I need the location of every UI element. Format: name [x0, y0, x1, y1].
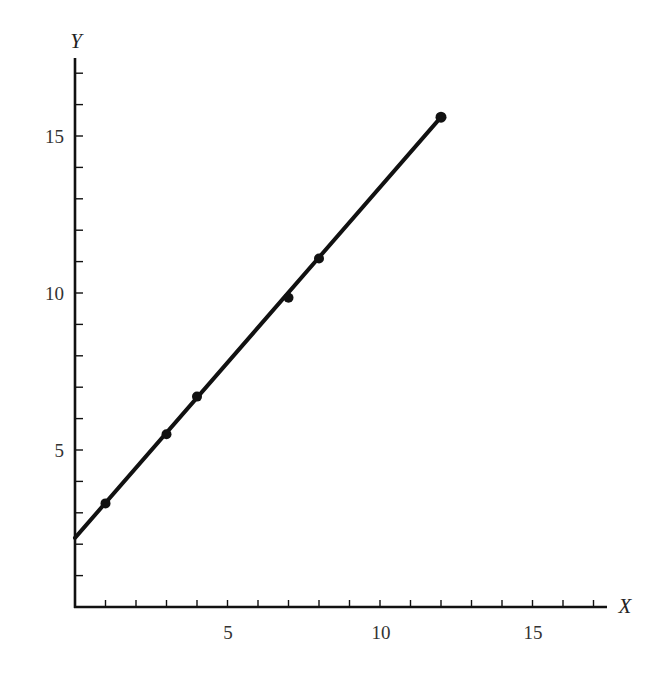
data-point [284, 293, 294, 303]
data-point [192, 392, 202, 402]
y-tick-label-10: 10 [45, 283, 64, 304]
x-axis-label: X [618, 594, 633, 618]
y-tick-label-5: 5 [55, 440, 65, 461]
chart: Y X 5 10 15 5 10 15 [0, 0, 666, 677]
data-point [436, 112, 447, 123]
x-tick-label-5: 5 [223, 622, 233, 643]
data-point [162, 429, 172, 439]
tick-marks [75, 73, 594, 607]
y-axis-label: Y [70, 29, 84, 53]
y-tick-label-15: 15 [45, 126, 64, 147]
fitted-line [75, 117, 441, 538]
plot-area [75, 112, 447, 538]
x-tick-label-15: 15 [524, 622, 543, 643]
data-point [101, 498, 111, 508]
data-point [314, 253, 324, 263]
x-tick-label-10: 10 [372, 622, 391, 643]
